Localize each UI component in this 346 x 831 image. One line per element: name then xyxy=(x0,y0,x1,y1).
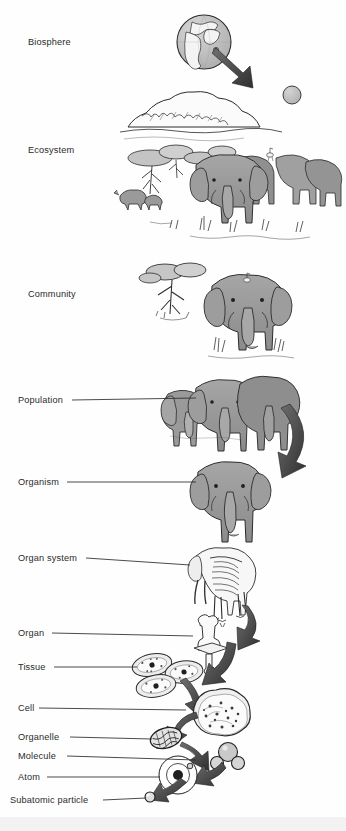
cell-icon xyxy=(193,689,250,736)
leader-organ-system xyxy=(86,558,190,565)
molecule-icon xyxy=(211,743,245,770)
leader-organelle xyxy=(70,737,152,739)
single-elephant-icon xyxy=(190,462,271,542)
leader-subatomic xyxy=(103,798,146,800)
label-subatomic-particle: Subatomic particle xyxy=(10,796,88,805)
label-ecosystem: Ecosystem xyxy=(28,146,74,155)
label-organelle: Organelle xyxy=(18,733,59,742)
label-community: Community xyxy=(28,290,76,299)
elephant-skeleton-icon xyxy=(188,548,256,627)
label-molecule: Molecule xyxy=(18,752,56,761)
label-organ: Organ xyxy=(18,629,44,638)
label-atom: Atom xyxy=(18,773,40,782)
tree-and-elephant-icon xyxy=(139,263,294,358)
elephant-front-icon xyxy=(190,155,268,223)
community-elephant-icon xyxy=(204,273,292,350)
elephant-herd-icon xyxy=(150,148,342,239)
egret-bird-icon xyxy=(267,148,274,161)
diagram-canvas: Biosphere Ecosystem Community Population… xyxy=(0,0,346,831)
savanna-scene-icon xyxy=(114,86,342,239)
label-population: Population xyxy=(18,396,63,405)
bottom-band xyxy=(0,817,346,831)
leader-cell xyxy=(39,708,186,710)
elephant-herd-population-icon xyxy=(161,376,300,451)
sun-icon xyxy=(283,86,301,104)
label-tissue: Tissue xyxy=(18,663,46,672)
biological-hierarchy-illustration xyxy=(0,0,346,831)
leader-organ xyxy=(52,633,193,636)
subatomic-particle-icon xyxy=(145,792,155,802)
arrow-globe-to-ecosystem xyxy=(212,48,253,88)
label-organ-system: Organ system xyxy=(18,554,77,563)
rhinoceros-icon xyxy=(114,190,162,210)
label-cell: Cell xyxy=(18,704,34,713)
label-biosphere: Biosphere xyxy=(28,38,71,47)
label-organism: Organism xyxy=(18,478,59,487)
mountain-icon xyxy=(120,92,282,141)
